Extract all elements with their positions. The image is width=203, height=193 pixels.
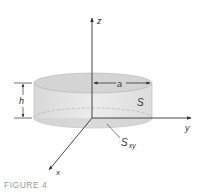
z-axis-label: z xyxy=(96,16,102,26)
surface-label: S xyxy=(137,97,144,108)
projection-label-main: S xyxy=(121,137,128,148)
projection-label-sub: xy xyxy=(128,142,137,150)
cylinder-diagram: z y x a h S Sxy FIGURE 4 xyxy=(0,0,203,193)
height-label: h xyxy=(19,96,24,106)
x-axis-label: x xyxy=(55,168,61,177)
figure-caption: FIGURE 4 xyxy=(4,180,47,190)
y-axis-label: y xyxy=(184,123,190,133)
projection-label: Sxy xyxy=(121,137,136,150)
radius-label: a xyxy=(117,79,122,89)
cylinder-bottom-region xyxy=(34,118,152,128)
